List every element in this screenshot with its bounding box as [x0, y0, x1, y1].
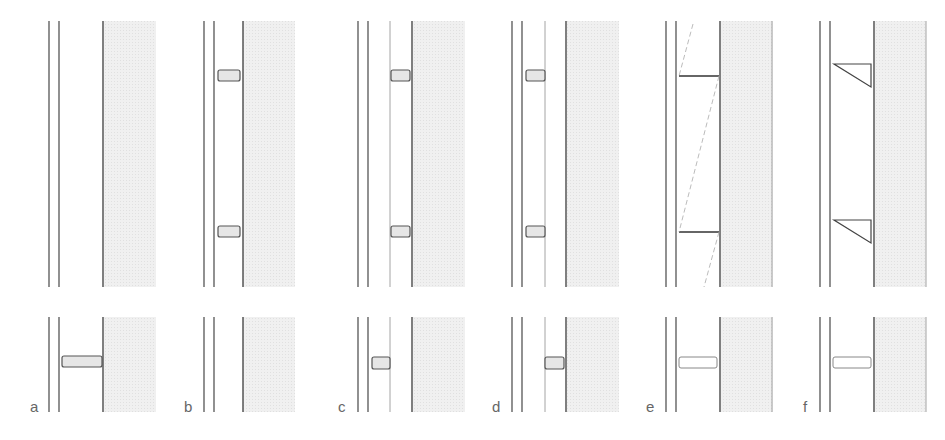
panel-e-elevation: [666, 21, 773, 287]
tie-block: [526, 226, 545, 237]
panel-f-elevation: [820, 21, 926, 287]
panel-f-section: [820, 317, 926, 412]
tie-block: [218, 226, 240, 237]
tie-triangle: [834, 220, 871, 243]
tie-block-white: [679, 357, 717, 368]
panel-label-d: d: [492, 399, 500, 414]
tie-triangle: [834, 64, 871, 87]
panel-e-section: [666, 317, 773, 412]
panel-d-section: [512, 317, 619, 412]
panel-label-b: b: [184, 399, 192, 414]
panel-b-section: [204, 317, 295, 412]
tie-block: [62, 356, 102, 367]
panel-a-elevation: [49, 21, 156, 287]
wall-section-diagram: [0, 0, 945, 440]
tie-block: [391, 70, 410, 81]
tie-block: [391, 226, 410, 237]
panel-label-e: e: [646, 399, 654, 414]
panel-c-elevation: [358, 21, 465, 287]
tie-block-white: [833, 357, 871, 368]
panel-b-elevation: [204, 21, 295, 287]
tie-block: [545, 357, 564, 369]
panel-c-section: [358, 317, 465, 412]
panel-label-c: c: [338, 399, 346, 414]
tie-block: [372, 357, 390, 369]
panel-label-a: a: [30, 399, 38, 414]
panel-d-elevation: [512, 21, 619, 287]
panel-a-section: [49, 317, 156, 412]
panel-label-f: f: [803, 399, 807, 414]
tie-block: [526, 70, 545, 81]
tie-block: [218, 70, 240, 81]
